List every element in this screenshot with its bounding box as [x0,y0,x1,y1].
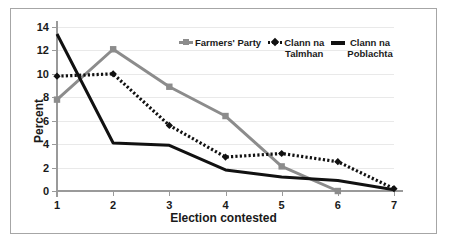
legend-marker-icon [268,38,282,47]
x-tick [226,191,227,196]
data-point-marker [166,84,172,90]
legend-marker-icon [179,38,193,47]
series-line [57,49,338,191]
legend-marker-icon [331,38,345,47]
legend-label: Clann na Poblachta [347,37,392,59]
chart-container: Percent 02468101214 1234567 Farmers' Par… [10,8,437,234]
x-axis-title: Election contested [11,211,436,225]
y-tick-label: 12 [37,44,49,56]
x-tick [57,191,58,196]
x-tick-label: 6 [335,199,341,211]
data-point-marker [222,113,228,119]
x-tick [169,191,170,196]
x-tick-label: 4 [222,199,228,211]
legend-item-farmers-party[interactable]: Farmers' Party [179,37,261,48]
x-tick-label: 5 [279,199,285,211]
legend-label: Clann na Talmhan [284,37,324,59]
chart-legend: Farmers' Party Clann na Talmhan Clann na… [179,37,400,59]
series-2 [53,70,397,192]
x-tick-label: 7 [391,199,397,211]
x-tick [282,191,283,196]
y-tick-label: 2 [43,162,49,174]
series-1 [54,46,341,194]
y-tick-label: 0 [43,185,49,197]
data-point-marker [222,153,229,160]
data-point-marker [54,96,60,102]
legend-label: Farmers' Party [195,37,261,48]
y-tick-label: 6 [43,115,49,127]
data-point-marker [278,163,284,169]
y-tick-label: 14 [37,21,49,33]
y-tick-label: 4 [43,138,49,150]
data-point-marker [335,188,341,194]
data-point-marker [110,46,116,52]
data-point-marker [278,150,285,157]
x-tick-label: 3 [166,199,172,211]
y-tick-label: 8 [43,91,49,103]
legend-item-clann-na-poblachta[interactable]: Clann na Poblachta [331,37,392,59]
data-point-marker [110,70,117,77]
x-tick [113,191,114,196]
x-tick-label: 2 [110,199,116,211]
x-tick-label: 1 [54,199,60,211]
legend-item-clann-na-talmhan[interactable]: Clann na Talmhan [268,37,324,59]
y-tick-label: 10 [37,68,49,80]
